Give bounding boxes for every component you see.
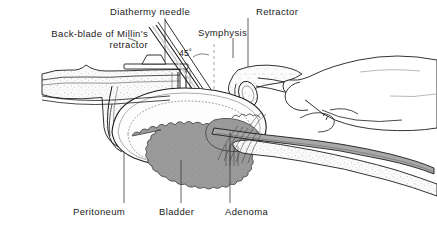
label-back-blade-line1: Back-blade of Millin's <box>8 28 148 39</box>
label-peritoneum: Peritoneum <box>73 206 125 217</box>
label-angle-45: 45˚ <box>179 48 192 58</box>
label-bladder: Bladder <box>159 206 194 217</box>
label-retractor: Retractor <box>256 6 298 17</box>
label-back-blade-line2: retractor <box>8 39 148 50</box>
surgeons-hand <box>283 56 437 131</box>
surgical-illustration: Back-blade of Millin's retractor Diather… <box>0 0 437 232</box>
label-diathermy-needle: Diathermy needle <box>110 6 190 17</box>
label-adenoma: Adenoma <box>225 206 268 217</box>
label-symphysis: Symphysis <box>198 27 247 38</box>
